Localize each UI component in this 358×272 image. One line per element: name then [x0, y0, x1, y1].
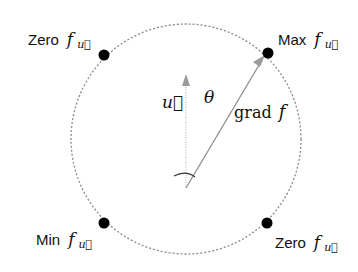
- grad-vector-arrowhead-icon: [253, 55, 265, 67]
- u-vector-label: u⃗: [162, 92, 183, 112]
- zero-top-left-label: Zero f u⃗: [28, 29, 91, 51]
- theta-angle-arc: [174, 173, 195, 177]
- diagram-canvas: Zero f u⃗ Max f u⃗ Min f u⃗ Zero f u⃗ u⃗…: [0, 0, 358, 272]
- min-label: Min f u⃗: [36, 229, 92, 251]
- zero-bottom-right-label: Zero f u⃗: [275, 232, 338, 254]
- theta-label: θ: [204, 87, 214, 107]
- zero-top-left-dot: [99, 50, 110, 61]
- u-vector-arrowhead-icon: [182, 74, 190, 86]
- grad-f-label: grad f: [234, 101, 289, 122]
- max-point-dot: [263, 48, 274, 59]
- zero-bottom-right-dot: [262, 218, 273, 229]
- max-label: Max f u⃗: [278, 29, 338, 51]
- grad-vector-line: [186, 60, 262, 188]
- min-point-dot: [99, 218, 110, 229]
